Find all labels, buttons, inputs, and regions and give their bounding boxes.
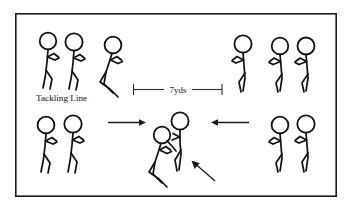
tackling-line-label: Tackling Line bbox=[36, 93, 87, 103]
tackling-drill-diagram: 7yds Tackling Line bbox=[0, 0, 352, 211]
distance-label: 7yds bbox=[169, 85, 187, 95]
diagram-canvas: 7yds Tackling Line bbox=[0, 0, 352, 211]
